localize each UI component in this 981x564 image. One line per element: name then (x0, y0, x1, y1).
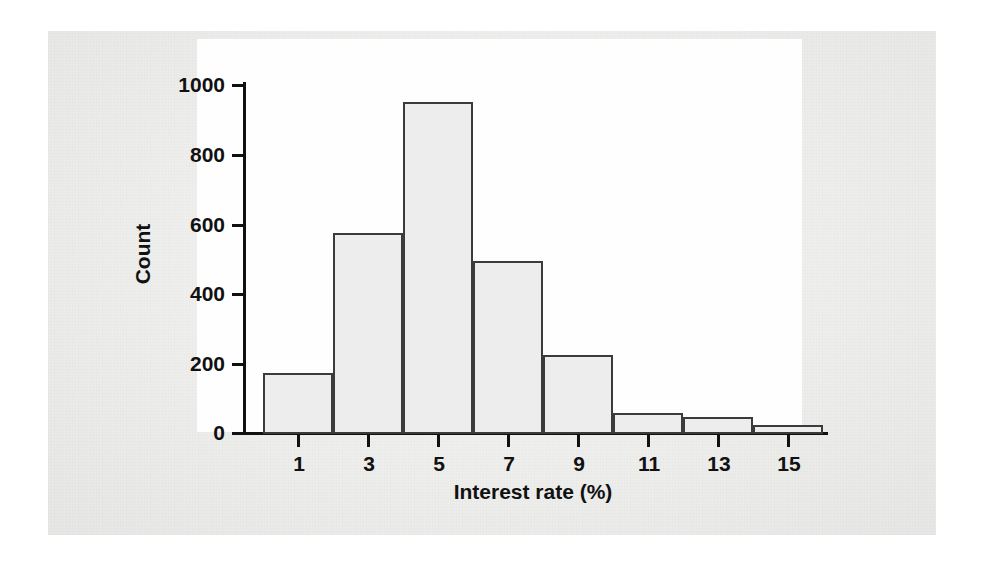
histogram-bar (683, 417, 753, 435)
x-tick-label: 13 (707, 452, 730, 476)
histogram-bar (753, 425, 823, 434)
y-tick-mark (232, 363, 244, 366)
y-tick-label: 400 (190, 282, 225, 306)
y-tick-label: 600 (190, 213, 225, 237)
y-tick-label: 200 (190, 352, 225, 376)
y-axis-title: Count (131, 224, 155, 285)
y-tick-mark (232, 154, 244, 157)
x-tick-mark (647, 434, 650, 447)
histogram-bar (473, 261, 543, 434)
x-tick-label: 3 (363, 452, 375, 476)
y-tick-label: 0 (213, 421, 225, 445)
y-tick-label: 800 (190, 143, 225, 167)
y-tick-mark (232, 432, 244, 435)
histogram-bar (613, 413, 683, 434)
x-tick-mark (507, 434, 510, 447)
histogram-bar (403, 102, 473, 435)
histogram-bar (543, 355, 613, 434)
x-tick-label: 9 (573, 452, 585, 476)
x-tick-mark (367, 434, 370, 447)
x-tick-mark (787, 434, 790, 447)
histogram-figure: 1000 800 600 400 200 0 (0, 0, 981, 564)
x-axis-title: Interest rate (%) (454, 480, 613, 504)
y-tick-label: 1000 (178, 73, 225, 97)
histogram-bar (333, 233, 403, 434)
x-tick-mark (577, 434, 580, 447)
x-tick-mark (717, 434, 720, 447)
x-tick-label: 7 (503, 452, 515, 476)
y-tick-mark (232, 84, 244, 87)
y-tick-mark (232, 224, 244, 227)
y-tick-mark (232, 293, 244, 296)
y-axis-line (243, 82, 246, 435)
x-tick-label: 1 (293, 452, 305, 476)
chart-area: 1000 800 600 400 200 0 (0, 0, 981, 564)
x-tick-mark (437, 434, 440, 447)
x-tick-label: 15 (777, 452, 800, 476)
x-tick-label: 5 (433, 452, 445, 476)
x-tick-label: 11 (638, 452, 660, 476)
x-tick-mark (297, 434, 300, 447)
histogram-bar (263, 373, 333, 434)
